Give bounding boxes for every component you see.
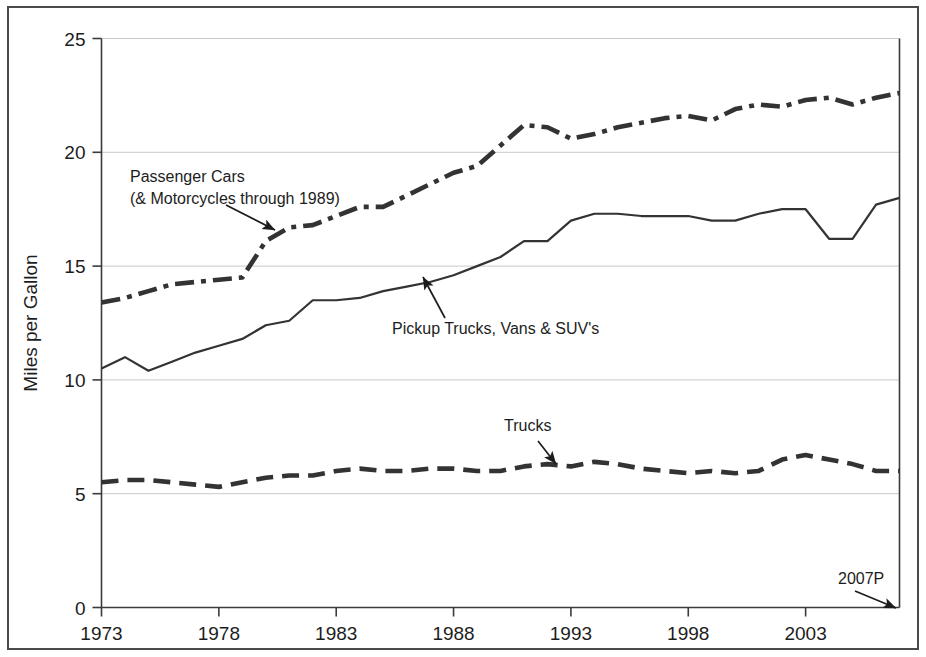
series-line-2 bbox=[102, 455, 900, 487]
annotations-group: Passenger Cars(& Motorcycles through 198… bbox=[130, 168, 896, 608]
series-line-1 bbox=[102, 198, 900, 371]
y-tick-label-25: 25 bbox=[64, 29, 85, 50]
x-tick-label-1993: 1993 bbox=[550, 623, 592, 644]
y-axis-ticks-group: 0510152025 bbox=[64, 29, 101, 619]
x-tick-label-1988: 1988 bbox=[432, 623, 474, 644]
y-axis-title-group: Miles per Gallon bbox=[20, 254, 41, 391]
x-tick-label-1998: 1998 bbox=[667, 623, 709, 644]
pickup-trucks-annotation-leader-arrow-icon bbox=[423, 277, 445, 318]
y-tick-label-15: 15 bbox=[64, 256, 85, 277]
plot-svg: 0510152025 1973197819831988199319982003 … bbox=[0, 0, 926, 657]
y-tick-label-10: 10 bbox=[64, 370, 85, 391]
trucks-annotation-leader-arrow-icon bbox=[538, 441, 556, 464]
pickup-trucks-annotation: Pickup Trucks, Vans & SUV's bbox=[392, 277, 599, 337]
trucks-annotation-line1: Trucks bbox=[504, 417, 551, 434]
x-tick-label-1973: 1973 bbox=[80, 623, 122, 644]
fuel-economy-line-chart: 0510152025 1973197819831988199319982003 … bbox=[0, 0, 926, 657]
y-axis-title: Miles per Gallon bbox=[20, 254, 41, 391]
x-axis-ticks-group: 1973197819831988199319982003 bbox=[80, 608, 826, 644]
y-tick-label-20: 20 bbox=[64, 142, 85, 163]
pickup-trucks-annotation-line1: Pickup Trucks, Vans & SUV's bbox=[392, 320, 599, 337]
passenger-cars-annotation-leader-arrow-icon bbox=[226, 205, 275, 230]
trucks-annotation: Trucks bbox=[504, 417, 556, 464]
x-tick-label-1983: 1983 bbox=[315, 623, 357, 644]
passenger-cars-annotation-line1: Passenger Cars bbox=[130, 168, 245, 185]
x-tick-label-2003: 2003 bbox=[784, 623, 826, 644]
passenger-cars-annotation: Passenger Cars(& Motorcycles through 198… bbox=[130, 168, 340, 230]
x-tick-label-1978: 1978 bbox=[198, 623, 240, 644]
projection-year-annotation-line1: 2007P bbox=[838, 570, 884, 587]
y-tick-label-5: 5 bbox=[75, 484, 86, 505]
y-tick-label-0: 0 bbox=[75, 598, 86, 619]
passenger-cars-annotation-line2: (& Motorcycles through 1989) bbox=[130, 190, 340, 207]
projection-year-annotation-leader-arrow-icon bbox=[855, 591, 896, 608]
projection-year-annotation: 2007P bbox=[838, 570, 896, 608]
chart-page: 0510152025 1973197819831988199319982003 … bbox=[0, 0, 926, 657]
